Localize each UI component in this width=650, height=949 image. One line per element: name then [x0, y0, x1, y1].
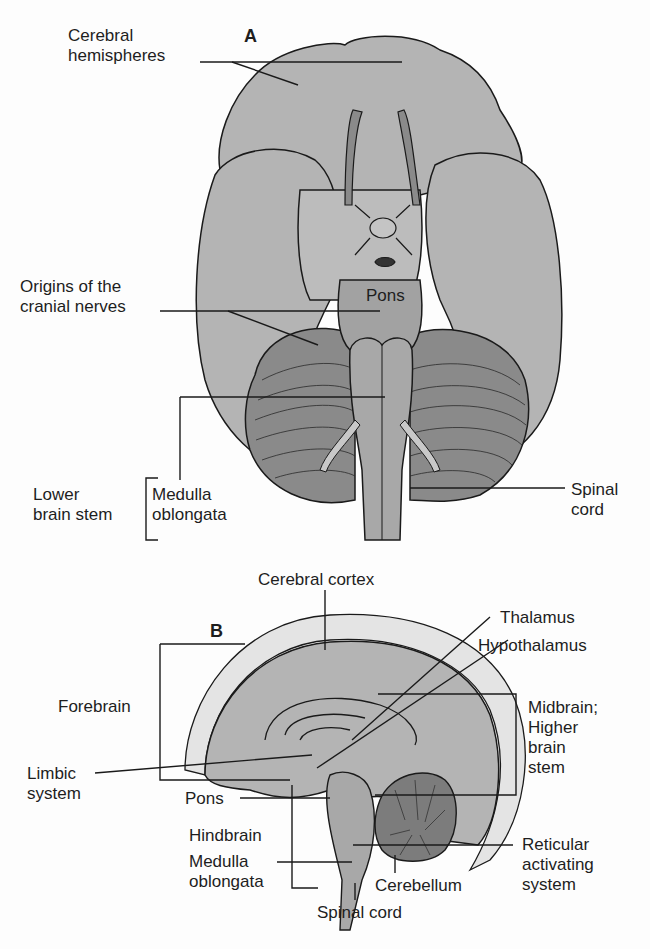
panel-a-letter: A [244, 26, 257, 47]
label-pons-a: Pons [366, 286, 405, 306]
label-spinal-cord-a: Spinal cord [571, 480, 618, 520]
label-pons-b: Pons [185, 789, 224, 809]
panel-b-letter: B [210, 621, 223, 642]
label-spinal-cord-b: Spinal cord [317, 903, 402, 923]
label-hindbrain: Hindbrain [189, 826, 262, 846]
label-midbrain: Midbrain; Higher brain stem [528, 698, 598, 778]
label-forebrain: Forebrain [58, 697, 131, 717]
brain-illustration [0, 0, 650, 949]
label-cerebral-hemispheres: Cerebral hemispheres [68, 26, 165, 66]
label-cerebellum: Cerebellum [375, 876, 462, 896]
label-limbic-system: Limbic system [27, 764, 81, 804]
label-thalamus: Thalamus [500, 608, 575, 628]
label-origins-cranial-nerves: Origins of the cranial nerves [20, 277, 126, 317]
label-hypothalamus: Hypothalamus [478, 636, 587, 656]
label-medulla-oblongata-b: Medulla oblongata [189, 852, 264, 892]
label-medulla-oblongata-a: Medulla oblongata [152, 485, 227, 525]
label-reticular-activating-system: Reticular activating system [522, 835, 594, 895]
label-lower-brain-stem: Lower brain stem [33, 485, 112, 525]
label-cerebral-cortex: Cerebral cortex [258, 570, 374, 590]
